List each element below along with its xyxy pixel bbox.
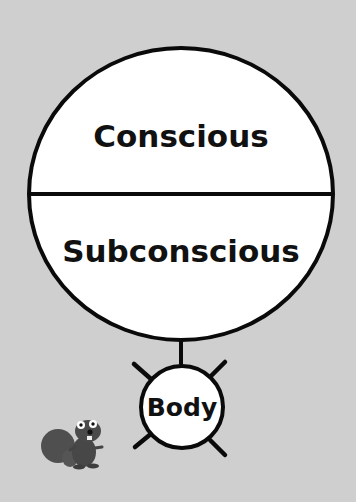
mind-circle: Conscious Subconscious [29,48,333,340]
mind-body-diagram: Conscious Subconscious Body [0,0,356,502]
body-circle: Body [141,366,223,448]
conscious-label: Conscious [93,118,268,154]
subconscious-label: Subconscious [62,233,300,269]
squirrel-icon [41,420,102,470]
body-label: Body [147,393,217,422]
